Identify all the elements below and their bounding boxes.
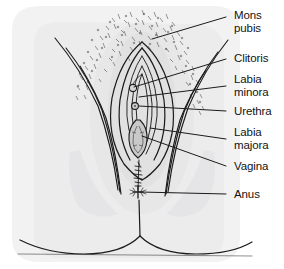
urethra-opening — [132, 103, 139, 110]
body-shading — [12, 6, 240, 262]
diagram-page: Mons pubis Clitoris Labia minora Urethra… — [0, 0, 284, 269]
label-vagina: Vagina — [234, 160, 268, 173]
label-mons-pubis: Mons pubis — [234, 9, 262, 34]
label-anus: Anus — [234, 188, 260, 201]
label-labia-minora: Labia minora — [234, 73, 269, 98]
label-urethra: Urethra — [234, 105, 272, 118]
label-clitoris: Clitoris — [234, 52, 268, 65]
label-labia-majora: Labia majora — [234, 126, 269, 151]
